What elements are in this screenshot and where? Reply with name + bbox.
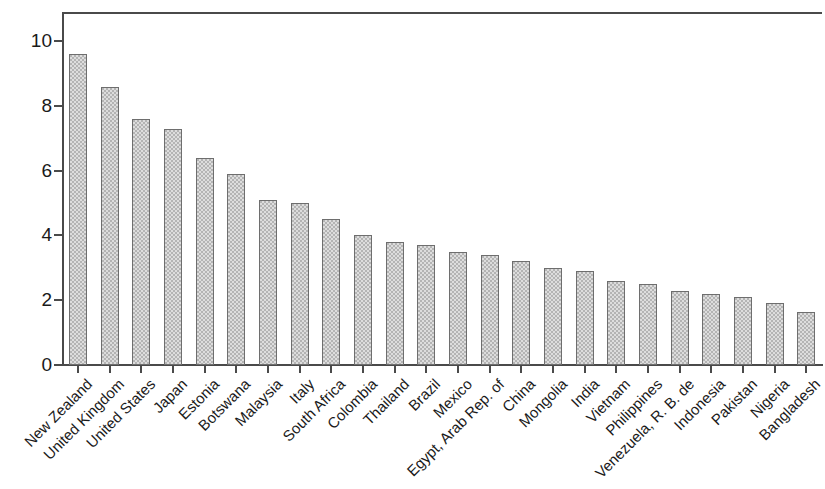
x-axis-tick [109,366,111,373]
bar [797,312,815,365]
x-axis-tick [647,366,649,373]
y-axis-tick [54,234,63,236]
bar [227,174,245,365]
x-axis-tick [520,366,522,373]
bar [702,294,720,365]
bar [322,219,340,365]
x-axis-tick [267,366,269,373]
y-axis-tick [54,170,63,172]
bar [766,303,784,365]
x-axis-tick [805,366,807,373]
bar [734,297,752,365]
bar [576,271,594,365]
bar [639,284,657,365]
x-axis-tick [172,366,174,373]
y-axis-tick [54,40,63,42]
y-axis-tick-label: 0 [6,355,52,374]
x-axis-tick [457,366,459,373]
bar [132,119,150,365]
bar [512,261,530,365]
x-axis-tick [615,366,617,373]
y-axis-tick [54,105,63,107]
y-axis-tick-label: 4 [6,225,52,244]
x-axis-tick [330,366,332,373]
bar [69,54,87,365]
y-axis-tick-label: 2 [6,290,52,309]
x-axis-tick [584,366,586,373]
bar [386,242,404,365]
y-axis-tick [54,364,63,366]
x-axis-tick [679,366,681,373]
x-axis-tick [77,366,79,373]
x-axis-tick [742,366,744,373]
x-axis-tick [235,366,237,373]
x-axis-tick [362,366,364,373]
x-axis-tick [299,366,301,373]
x-axis-tick [489,366,491,373]
bar [607,281,625,365]
bar [481,255,499,365]
bar [291,203,309,365]
bars-layer [62,12,822,365]
bar [259,200,277,365]
y-axis-tick-label: 10 [6,31,52,50]
x-axis-tick [774,366,776,373]
x-axis-tick [710,366,712,373]
x-axis-tick [394,366,396,373]
x-axis-tick [204,366,206,373]
bar [449,252,467,365]
y-axis-tick [54,299,63,301]
x-axis-tick [552,366,554,373]
bar [196,158,214,365]
bar [101,87,119,366]
x-axis-tick [140,366,142,373]
bar-chart: 0246810 New ZealandUnited KingdomUnited … [0,0,825,489]
y-axis: 0246810 [0,0,52,380]
x-axis-tick [425,366,427,373]
bar [544,268,562,365]
bar [671,291,689,365]
bar [164,129,182,365]
y-axis-tick-label: 8 [6,96,52,115]
bar [354,235,372,365]
y-axis-tick-label: 6 [6,161,52,180]
bar [417,245,435,365]
